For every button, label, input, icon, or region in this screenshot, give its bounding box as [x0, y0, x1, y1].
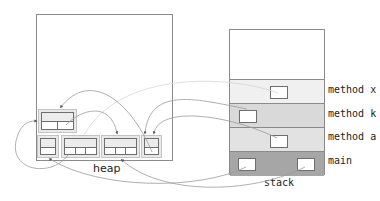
stack-frame-method-k — [230, 103, 324, 128]
frame-label-method-a: method a — [328, 131, 376, 142]
frame-label-main: main — [328, 155, 352, 166]
heap-object-3 — [101, 135, 140, 158]
pointer-slot — [238, 158, 256, 171]
heap-label: heap — [93, 162, 120, 175]
stack-frame-main — [230, 151, 324, 176]
heap-object-2 — [61, 135, 100, 158]
stack-region — [229, 29, 325, 175]
heap-object-1 — [37, 135, 59, 158]
pointer-slot — [297, 158, 315, 171]
pointer-slot — [239, 110, 257, 123]
stack-frame-method-a — [230, 127, 324, 152]
pointer-slot — [270, 86, 288, 99]
heap-object-top-left — [38, 109, 77, 133]
frame-label-method-k: method k — [328, 108, 376, 119]
stack-label: stack — [264, 177, 294, 188]
stack-frame-method-x — [230, 79, 324, 104]
frame-label-method-x: method x — [328, 84, 376, 95]
heap-object-4 — [141, 135, 162, 158]
pointer-slot — [270, 135, 288, 148]
